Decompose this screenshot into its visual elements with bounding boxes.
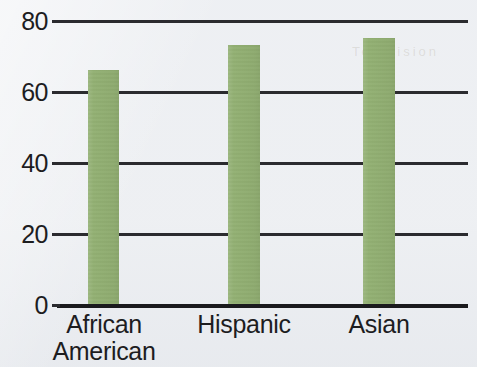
tick-mark-60 [52, 91, 60, 94]
tick-mark-20 [52, 233, 60, 236]
tick-mark-0 [52, 304, 60, 307]
axis-baseline-0 [57, 304, 468, 308]
plot-area: 80 60 40 20 0 African American Hispanic … [0, 0, 477, 367]
tick-mark-40 [52, 162, 60, 165]
y-axis-tick-label-20: 20 [0, 222, 48, 247]
bar-african-american [88, 70, 119, 304]
y-axis-tick-label-60: 60 [0, 80, 48, 105]
gridline-80 [57, 20, 468, 23]
x-axis-label-asian: Asian [308, 311, 450, 338]
bar-hispanic [228, 45, 260, 304]
x-axis-label-african-american: African American [33, 311, 175, 365]
y-axis-tick-label-80: 80 [0, 9, 48, 34]
bar-asian [363, 38, 395, 304]
y-axis-tick-label-40: 40 [0, 151, 48, 176]
tick-mark-80 [52, 20, 60, 23]
x-axis-label-hispanic: Hispanic [173, 311, 315, 338]
chart-figure: Television 80 60 40 20 0 African America… [0, 0, 477, 367]
